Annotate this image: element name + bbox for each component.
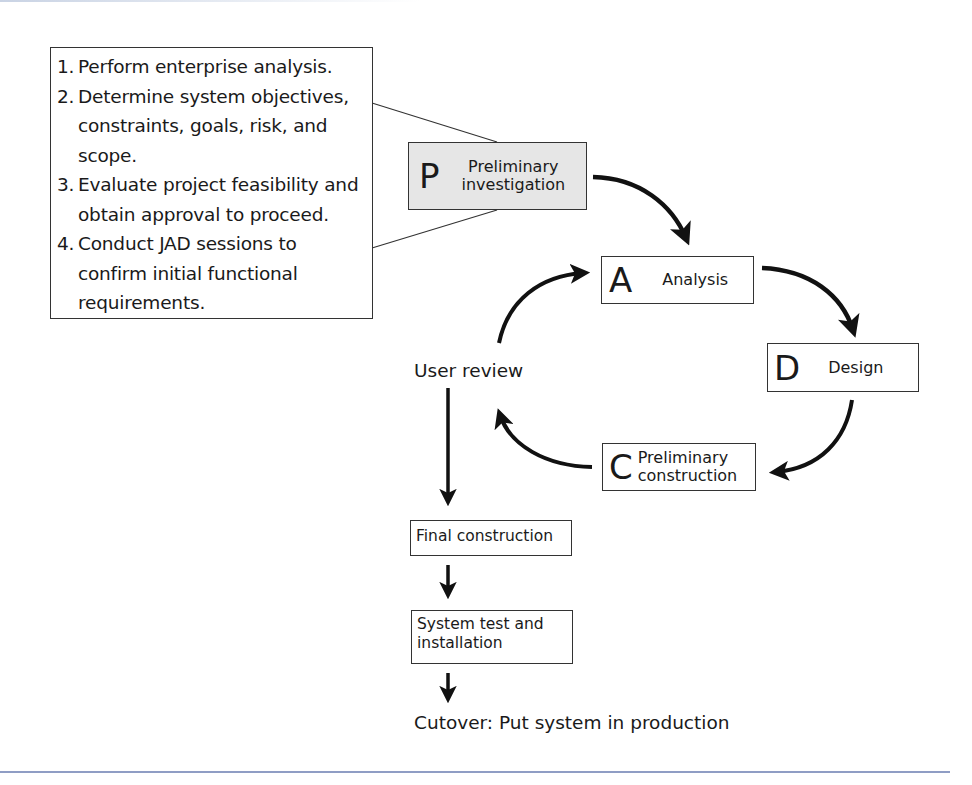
step-number: 4. (57, 229, 78, 318)
arrow-d-to-c (776, 400, 852, 472)
phase-letter: C (609, 450, 633, 484)
step-item: 4. Conduct JAD sessions to confirm initi… (57, 229, 366, 318)
phase-analysis: A Analysis (601, 256, 754, 304)
step-item: 2. Determine system objectives, constrai… (57, 82, 366, 171)
step-number: 1. (57, 52, 78, 82)
phase-label: Analysis (662, 271, 728, 289)
step-item: 3. Evaluate project feasibility and obta… (57, 170, 366, 229)
callout-line-top (372, 103, 497, 142)
step-text: Evaluate project feasibility and obtain … (78, 170, 366, 229)
phase-label-line: construction (638, 466, 738, 485)
phase-letter: P (419, 159, 440, 193)
system-test-line: installation (417, 634, 503, 652)
phase-label: Preliminary investigation (462, 158, 566, 194)
phase-preliminary-investigation: P Preliminary investigation (408, 142, 587, 210)
phase-label-line: Preliminary (638, 448, 728, 467)
step-number: 3. (57, 170, 78, 229)
phase-label: Design (828, 359, 883, 377)
phase-letter: A (609, 263, 632, 297)
phase-label: Preliminary construction (638, 449, 738, 485)
bottom-rule (0, 771, 950, 773)
phase-design: D Design (767, 343, 919, 392)
system-test-box: System test and installation (411, 610, 573, 664)
arrow-p-to-a (593, 177, 686, 238)
phase-label-line: Preliminary (468, 157, 558, 176)
step-text: Determine system objectives, constraints… (78, 82, 366, 171)
callout-line-bottom (372, 210, 497, 248)
arrow-user-review-to-a (499, 273, 583, 343)
arrow-a-to-d (762, 268, 853, 330)
phase-preliminary-construction: C Preliminary construction (602, 443, 756, 491)
step-text: Conduct JAD sessions to confirm initial … (78, 229, 366, 318)
phase-letter: D (774, 351, 800, 385)
step-item: 1. Perform enterprise analysis. (57, 52, 366, 82)
user-review-label: User review (414, 360, 523, 381)
phase-label-line: investigation (462, 175, 566, 194)
preliminary-investigation-steps: 1. Perform enterprise analysis. 2. Deter… (50, 47, 373, 319)
final-construction-box: Final construction (410, 520, 572, 556)
cutover-label: Cutover: Put system in production (414, 712, 729, 733)
arrow-c-to-user-review (500, 415, 592, 467)
step-text: Perform enterprise analysis. (78, 52, 366, 82)
step-number: 2. (57, 82, 78, 171)
system-test-line: System test and (417, 615, 544, 633)
